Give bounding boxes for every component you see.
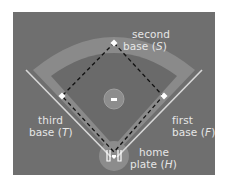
label-third-base: third base (T) bbox=[29, 114, 73, 138]
field-graphic bbox=[13, 12, 215, 175]
label-home-line2: plate (H) bbox=[130, 158, 177, 170]
pitchers-rubber bbox=[111, 98, 117, 101]
label-first-base: first base (F) bbox=[172, 114, 215, 138]
label-second-line2: base (S) bbox=[123, 40, 170, 52]
label-third-line1: third bbox=[29, 114, 73, 126]
label-second-line1: second bbox=[123, 28, 170, 40]
label-home-line1: home bbox=[130, 146, 177, 158]
label-first-line2: base (F) bbox=[172, 126, 215, 138]
label-third-line2: base (T) bbox=[29, 126, 73, 138]
label-second-base: second base (S) bbox=[123, 28, 170, 52]
label-first-line1: first bbox=[172, 114, 215, 126]
baseball-field: second base (S) third base (T) first bas… bbox=[13, 12, 215, 175]
label-home-plate: home plate (H) bbox=[130, 146, 177, 170]
